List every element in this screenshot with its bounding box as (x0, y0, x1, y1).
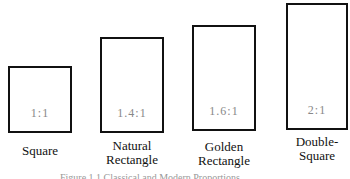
double-square-label-line1: Double- (278, 135, 350, 149)
golden-rectangle-label-line2: Rectangle (184, 154, 264, 168)
natural-rectangle-shape: 1.4:1 (100, 37, 164, 133)
natural-rectangle-label: Natural Rectangle (92, 139, 172, 167)
golden-rectangle-label: Golden Rectangle (184, 140, 264, 168)
square-label-line1: Square (0, 144, 80, 158)
square-shape: 1:1 (8, 66, 72, 133)
double-square-ratio: 2:1 (288, 103, 346, 118)
figure-caption: Figure 1.1 Classical and Modern Proporti… (60, 172, 240, 179)
natural-rectangle-label-line2: Rectangle (92, 153, 172, 167)
golden-rectangle-shape: 1.6:1 (192, 25, 256, 131)
natural-rectangle-ratio: 1.4:1 (102, 106, 162, 121)
double-square-label: Double- Square (278, 135, 350, 163)
natural-rectangle-label-line1: Natural (92, 139, 172, 153)
golden-rectangle-ratio: 1.6:1 (194, 104, 254, 119)
double-square-shape: 2:1 (286, 3, 348, 130)
square-label: Square (0, 144, 80, 158)
golden-rectangle-label-line1: Golden (184, 140, 264, 154)
double-square-label-line2: Square (278, 149, 350, 163)
square-ratio: 1:1 (10, 106, 70, 121)
